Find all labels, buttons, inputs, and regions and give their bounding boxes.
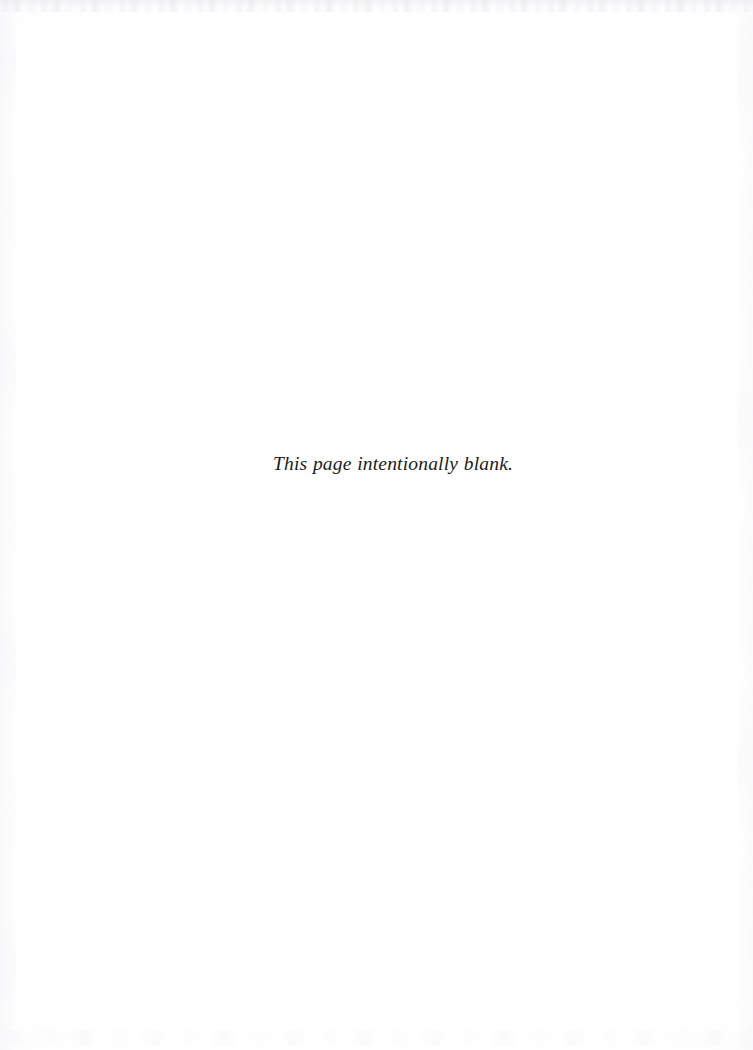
scan-artifact-top-edge <box>0 0 753 12</box>
scan-artifact-bottom-edge <box>0 1030 753 1046</box>
blank-page-notice-text: This page intentionally blank. <box>273 452 513 476</box>
scanned-page: This page intentionally blank. <box>0 0 753 1050</box>
paper-texture <box>0 0 753 1050</box>
blank-page-notice: This page intentionally blank. <box>0 452 753 476</box>
scan-artifact-left-edge <box>0 0 16 1050</box>
scan-artifact-right-edge <box>737 0 753 1050</box>
